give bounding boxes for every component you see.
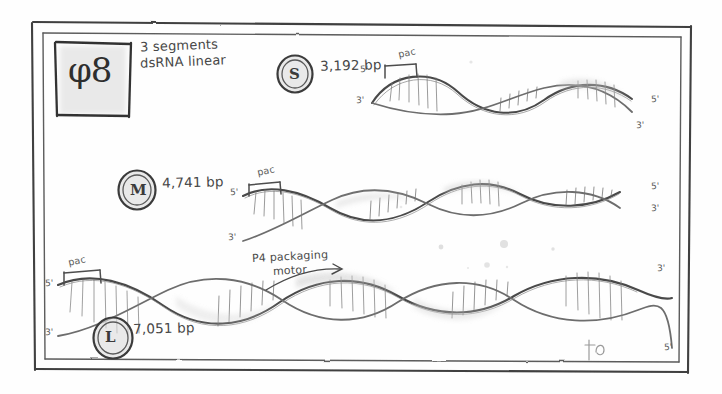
end-label-l-right-5: 5' [664,342,673,352]
segment-length-l: 7,051 bp [133,319,195,337]
end-label-m-left-5: 5' [230,187,239,197]
end-label-s-left-5: 5' [360,64,369,74]
segment-length-s: 3,192 bp [320,56,382,74]
segment-length-m: 4,741 bp [162,173,224,191]
segment-s-helix [372,64,632,115]
end-label-m-right-5: 5' [651,181,660,191]
end-label-s-right-3: 3' [636,120,645,130]
segment-letter-l: L [105,328,116,346]
artist-signature [585,340,604,360]
segment-letter-s: S [289,65,300,83]
packaging-motor-label-line-2: motor [273,263,308,278]
genome-note-line-1: 3 segments [140,37,219,55]
end-label-l-right-3: 3' [657,263,666,273]
segment-m-helix [243,180,620,241]
end-label-m-right-3: 3' [651,203,660,213]
end-label-s-left-3: 3' [356,95,365,105]
end-label-l-left-3: 3' [45,327,54,337]
end-label-m-left-3: 3' [228,232,237,242]
segment-letter-m: M [130,181,147,199]
virus-name-label: φ8 [68,50,111,90]
end-label-s-right-5: 5' [651,94,660,104]
sketch-figure: φ8 3 segments dsRNA linear S 3,192 bp pa… [0,0,722,394]
end-label-l-left-5: 5' [45,278,54,288]
